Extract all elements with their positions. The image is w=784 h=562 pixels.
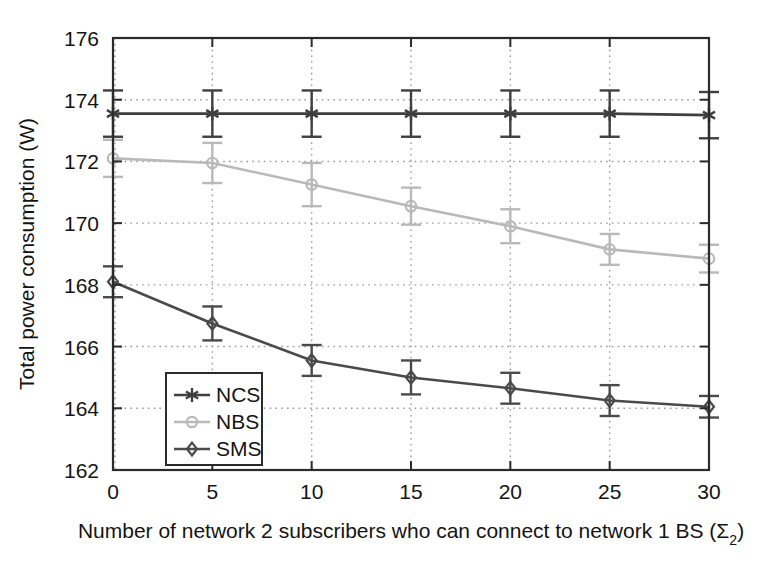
chart-figure: 162164166168170172174176 051015202530 To… (0, 0, 784, 562)
x-tick-label: 5 (206, 480, 218, 503)
x-axis-title-main: Number of network 2 subscribers who can … (78, 519, 729, 542)
legend-label: NCS (216, 383, 260, 406)
y-tick-label: 166 (64, 336, 99, 359)
y-axis-title: Total power consumption (W) (15, 118, 38, 390)
y-tick-label: 176 (64, 27, 99, 50)
chart-canvas: 162164166168170172174176 051015202530 To… (0, 0, 784, 562)
legend[interactable]: NCSNBSSMS (166, 373, 262, 465)
y-tick-label: 172 (64, 150, 99, 173)
y-tick-label: 170 (64, 212, 99, 235)
y-tick-label: 168 (64, 274, 99, 297)
legend-label: NBS (216, 410, 259, 433)
x-tick-label: 10 (300, 480, 323, 503)
y-tick-label: 174 (64, 89, 99, 112)
x-axis-title-tail: ) (737, 519, 744, 542)
x-axis-title-subscript: 2 (729, 532, 737, 548)
x-tick-label: 25 (598, 480, 621, 503)
x-tick-label: 20 (499, 480, 522, 503)
x-tick-label: 0 (107, 480, 119, 503)
x-tick-label: 30 (697, 480, 720, 503)
y-tick-label: 164 (64, 397, 99, 420)
legend-items: NCSNBSSMS (174, 383, 262, 460)
y-tick-label: 162 (64, 459, 99, 482)
x-tick-label: 15 (399, 480, 422, 503)
legend-label: SMS (216, 437, 262, 460)
